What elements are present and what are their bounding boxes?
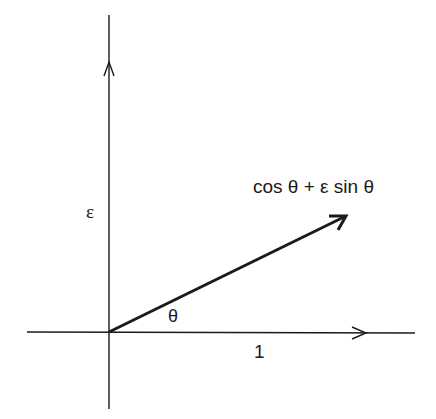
- horizontal-unit-label: 1: [254, 341, 265, 363]
- diagram-canvas: [0, 0, 436, 419]
- vector-label: cos θ + ε sin θ: [253, 176, 374, 198]
- horizontal-axis: [27, 332, 415, 333]
- angle-label: θ: [168, 306, 178, 327]
- vector-arrow: [109, 217, 344, 332]
- vertical-axis-label: ε: [86, 201, 94, 223]
